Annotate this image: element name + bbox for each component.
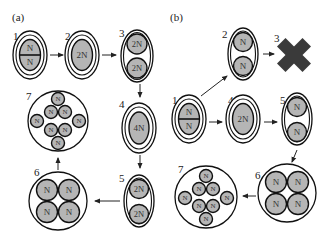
nucleus-label: N (210, 202, 215, 210)
cell-b5: 5 N N (280, 93, 312, 145)
cell-a2: 2 2N (65, 30, 99, 79)
nucleus-label: N (203, 215, 208, 223)
diagram-canvas: (a) 1 N N 2 2N 3 2N 2N (0, 0, 326, 243)
nucleus-label: N (76, 117, 81, 125)
nucleus-label: N (240, 37, 247, 47)
cell-number: 3 (274, 32, 280, 44)
cell-number: 7 (26, 90, 32, 102)
nucleus-label: 4N (134, 123, 146, 133)
nucleus-label: N (196, 185, 201, 193)
nucleus-label: N (240, 61, 247, 71)
nucleus-label: N (224, 194, 229, 202)
nucleus-label: N (273, 177, 280, 187)
nucleus-label: N (294, 127, 301, 137)
nucleus-label: 2N (132, 39, 142, 49)
cell-number: 6 (255, 169, 261, 181)
cell-b4: 4 2N (226, 94, 260, 143)
nucleus-label: N (186, 121, 193, 131)
nucleus-label: N (55, 139, 60, 147)
nucleus-label: N (34, 117, 39, 125)
arrow-icon (201, 76, 227, 96)
nucleus-label: N (203, 172, 208, 180)
nucleus-label: N (196, 202, 201, 210)
nucleus-label: N (44, 185, 51, 195)
cell-number: 2 (222, 28, 228, 40)
cell-number: 4 (119, 98, 125, 110)
cell-a1: 1 N N (13, 30, 47, 79)
nucleus-label: 2N (238, 114, 250, 124)
panel-a: (a) 1 N N 2 2N 3 2N 2N (12, 11, 156, 230)
nucleus-label: N (48, 126, 53, 134)
nucleus-label: N (273, 199, 280, 209)
cell-b1: 1 N N (172, 94, 206, 143)
cell-b6: 6 N N N N (255, 164, 316, 222)
nucleus-label: N (44, 207, 51, 217)
nucleus-label: N (48, 108, 53, 116)
cell-a4: 4 4N (119, 98, 156, 153)
cell-number: 5 (119, 172, 125, 184)
nucleus-label: 2N (134, 184, 144, 194)
cell-number: 7 (178, 163, 184, 175)
panel-b: (b) 2 N N 3 1 N (170, 11, 319, 228)
cell-number: 3 (119, 27, 125, 39)
nucleus-label: N (66, 185, 73, 195)
nucleus-label: N (27, 57, 34, 67)
nucleus-label: 2N (134, 209, 144, 219)
nucleus-label: N (186, 107, 193, 117)
cell-a3: 3 2N 2N (119, 27, 153, 82)
cell-number: 6 (34, 166, 40, 178)
cell-b3: 3 (269, 30, 320, 81)
nucleus-label: N (295, 199, 302, 209)
nucleus-label: N (55, 95, 60, 103)
nucleus-label: N (66, 207, 73, 217)
nucleus-label: N (62, 126, 67, 134)
nucleus-label: N (182, 194, 187, 202)
cell-b7: 7 N N N N N N N N (175, 163, 237, 228)
cell-a7: 7 N N N N N N N N (26, 90, 88, 151)
nucleus-label: N (62, 108, 67, 116)
cell-a6: 6 N N N N (29, 166, 87, 230)
cell-b2: 2 N N (222, 28, 258, 80)
nucleus-label: N (210, 185, 215, 193)
nucleus-label: N (27, 43, 34, 53)
panel-a-label: (a) (12, 11, 25, 24)
arrow-icon (292, 150, 297, 162)
nucleus-label: N (295, 177, 302, 187)
nucleus-label: N (294, 102, 301, 112)
nucleus-label: 2N (77, 50, 89, 60)
nucleus-label: 2N (132, 63, 142, 73)
panel-b-label: (b) (170, 11, 183, 24)
cell-a5: 5 2N 2N (119, 172, 154, 227)
